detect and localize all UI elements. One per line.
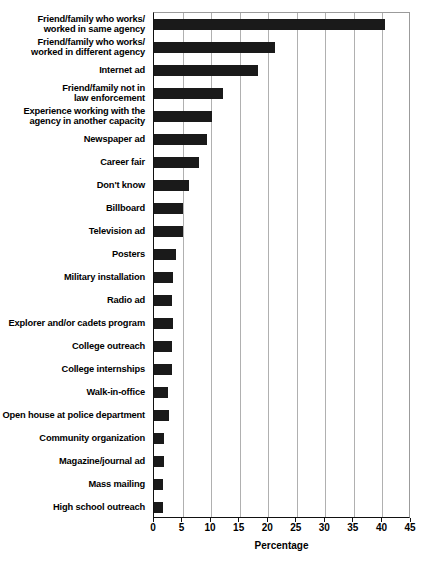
x-tick-label: 10	[205, 522, 216, 533]
bar	[154, 502, 163, 513]
gridline	[297, 13, 298, 517]
bar	[154, 249, 176, 260]
category-label: Mass mailing	[0, 479, 145, 490]
bar	[154, 88, 223, 99]
bar	[154, 180, 189, 191]
bar	[154, 203, 183, 214]
category-label: Don't know	[0, 180, 145, 191]
bar	[154, 134, 207, 145]
x-axis: 051015202530354045	[153, 518, 410, 536]
gridline	[382, 13, 383, 517]
bar-chart: Friend/family who works/ worked in same …	[0, 0, 426, 561]
bar	[154, 42, 275, 53]
category-label: Open house at police department	[0, 410, 145, 421]
x-tick-label: 0	[150, 522, 156, 533]
bar	[154, 226, 183, 237]
x-tick-label: 20	[262, 522, 273, 533]
bar	[154, 456, 164, 467]
bar	[154, 387, 168, 398]
bar	[154, 341, 172, 352]
category-label: College internships	[0, 364, 145, 375]
bar	[154, 318, 173, 329]
category-label: High school outreach	[0, 502, 145, 513]
x-tick-label: 15	[233, 522, 244, 533]
category-label: Career fair	[0, 157, 145, 168]
category-label: Experience working with the agency in an…	[0, 106, 145, 127]
gridline	[354, 13, 355, 517]
category-label: Magazine/journal ad	[0, 456, 145, 467]
bar	[154, 433, 164, 444]
x-tick-label: 5	[179, 522, 185, 533]
bar	[154, 295, 172, 306]
bar	[154, 364, 172, 375]
gridline	[268, 13, 269, 517]
category-label: Billboard	[0, 203, 145, 214]
gridline	[325, 13, 326, 517]
x-tick-label: 40	[376, 522, 387, 533]
category-label: College outreach	[0, 341, 145, 352]
bar	[154, 65, 258, 76]
x-axis-title: Percentage	[153, 540, 410, 551]
bar	[154, 19, 385, 30]
x-tick-label: 30	[319, 522, 330, 533]
bar	[154, 111, 212, 122]
category-label: Community organization	[0, 433, 145, 444]
x-tick-label: 35	[347, 522, 358, 533]
category-label: Posters	[0, 249, 145, 260]
x-tick-label: 25	[290, 522, 301, 533]
x-tick-label: 45	[404, 522, 415, 533]
category-label: Explorer and/or cadets program	[0, 318, 145, 329]
bar	[154, 157, 199, 168]
category-label: Radio ad	[0, 295, 145, 306]
category-label: Friend/family not in law enforcement	[0, 83, 145, 104]
bar	[154, 410, 169, 421]
category-label: Newspaper ad	[0, 134, 145, 145]
category-label: Walk-in-office	[0, 387, 145, 398]
category-label: Military installation	[0, 272, 145, 283]
category-label-column: Friend/family who works/ worked in same …	[0, 12, 150, 518]
category-label: Television ad	[0, 226, 145, 237]
bar	[154, 479, 163, 490]
plot-area	[153, 12, 410, 518]
category-label: Internet ad	[0, 65, 145, 76]
bar	[154, 272, 173, 283]
gridline	[240, 13, 241, 517]
category-label: Friend/family who works/ worked in diffe…	[0, 37, 145, 58]
category-label: Friend/family who works/ worked in same …	[0, 14, 145, 35]
